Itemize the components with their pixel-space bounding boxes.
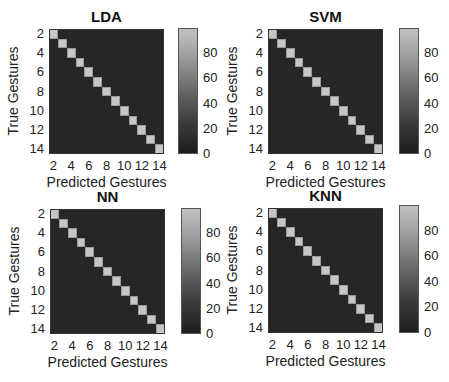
y-tick-label: 2: [23, 206, 45, 221]
diagonal-cell: [286, 48, 295, 58]
y-tick-label: 4: [241, 45, 263, 60]
y-axis-label: True Gestures: [224, 36, 240, 146]
y-tick-label: 6: [23, 244, 45, 259]
diagonal-cell: [277, 39, 286, 49]
diagonal-cell: [339, 106, 348, 116]
diagonal-cell: [286, 227, 295, 237]
diagonal-cell: [312, 256, 321, 266]
confusion-matrix: [50, 209, 165, 334]
y-tick-label: 6: [241, 243, 263, 258]
colorbar-tick-label: 80: [424, 223, 446, 238]
x-axis-label: Predicted Gestures: [248, 353, 403, 369]
y-tick-label: 4: [241, 224, 263, 239]
y-tick-label: 8: [241, 84, 263, 99]
diagonal-cell: [330, 275, 339, 285]
diagonal-cell: [374, 144, 383, 154]
diagonal-cell: [295, 237, 304, 247]
panel-knn: KNN24681012142468101214Predicted Gesture…: [0, 0, 224, 191]
diagonal-cell: [356, 304, 365, 314]
colorbar-tick-label: 0: [206, 326, 228, 341]
diagonal-cell: [59, 219, 68, 229]
colorbar-tick-label: 20: [424, 299, 446, 314]
diagonal-cell: [365, 135, 374, 145]
diagonal-cell: [138, 305, 147, 315]
diagonal-cell: [77, 238, 86, 248]
y-tick-label: 2: [241, 26, 263, 41]
diagonal-cell: [85, 247, 94, 257]
diagonal-cell: [68, 228, 77, 238]
colorbar-tick-label: 40: [424, 96, 446, 111]
diagonal-cell: [121, 286, 130, 296]
diagonal-cell: [374, 323, 383, 333]
diagonal-cell: [356, 125, 365, 135]
y-axis-label: True Gestures: [6, 216, 22, 326]
diagonal-cell: [321, 87, 330, 97]
diagonal-cell: [312, 77, 321, 87]
x-tick-label: 14: [151, 338, 171, 353]
diagonal-cell: [339, 285, 348, 295]
diagonal-cell: [50, 209, 59, 219]
diagonal-cell: [130, 296, 139, 306]
colorbar-tick-label: 60: [424, 248, 446, 263]
y-tick-label: 10: [241, 282, 263, 297]
y-tick-label: 10: [23, 283, 45, 298]
diagonal-cell: [321, 266, 330, 276]
y-tick-label: 14: [23, 321, 45, 336]
colorbar-tick-label: 80: [424, 45, 446, 60]
y-tick-label: 12: [23, 302, 45, 317]
diagonal-cell: [94, 257, 103, 267]
y-tick-label: 8: [23, 264, 45, 279]
y-tick-label: 10: [241, 103, 263, 118]
y-tick-label: 12: [241, 301, 263, 316]
diagonal-cell: [365, 314, 374, 324]
y-tick-label: 14: [241, 141, 263, 156]
diagonal-cell: [268, 29, 277, 39]
y-tick-label: 12: [241, 122, 263, 137]
y-tick-label: 14: [241, 320, 263, 335]
colorbar-tick-label: 40: [424, 274, 446, 289]
chart-title: SVM: [268, 8, 383, 25]
diagonal-cell: [348, 295, 357, 305]
y-axis-label: True Gestures: [224, 215, 240, 325]
y-tick-label: 8: [241, 263, 263, 278]
y-tick-label: 6: [241, 64, 263, 79]
x-tick-label: 14: [369, 337, 389, 352]
confusion-matrix: [268, 29, 383, 154]
diagonal-cell: [303, 246, 312, 256]
colorbar: [399, 28, 419, 154]
diagonal-cell: [112, 276, 121, 286]
y-tick-label: 4: [23, 225, 45, 240]
confusion-matrix: [268, 208, 383, 333]
diagonal-cell: [268, 208, 277, 218]
diagonal-cell: [348, 116, 357, 126]
colorbar-tick-label: 0: [424, 325, 446, 340]
colorbar: [181, 208, 201, 334]
diagonal-cell: [147, 315, 156, 325]
x-tick-label: 14: [369, 158, 389, 173]
y-tick-label: 2: [241, 205, 263, 220]
colorbar-tick-label: 20: [424, 121, 446, 136]
diagonal-cell: [303, 67, 312, 77]
chart-title: KNN: [268, 187, 383, 204]
colorbar-tick-label: 0: [424, 146, 446, 161]
diagonal-cell: [330, 96, 339, 106]
x-axis-label: Predicted Gestures: [30, 354, 185, 370]
diagonal-cell: [277, 218, 286, 228]
colorbar-tick-label: 60: [424, 70, 446, 85]
diagonal-cell: [103, 267, 112, 277]
diagonal-cell: [295, 58, 304, 68]
diagonal-cell: [156, 324, 165, 334]
colorbar: [399, 205, 419, 333]
